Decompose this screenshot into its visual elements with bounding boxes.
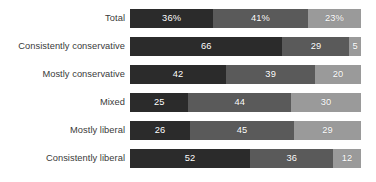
row-category-label: Consistently liberal — [0, 149, 130, 168]
row-category-label: Total — [0, 9, 130, 28]
bar-segment: 26 — [130, 121, 190, 140]
bar-segment: 66 — [130, 37, 282, 56]
bar-track: 66295 — [130, 37, 361, 56]
stacked-bar-chart: Total36%41%23%Consistently conservative6… — [0, 0, 376, 182]
bar-segment-value: 45 — [237, 121, 248, 140]
bar-segment: 44 — [188, 93, 291, 112]
chart-row: Mixed254430 — [0, 93, 376, 112]
bar-segment: 41% — [213, 9, 308, 28]
bar-segment: 52 — [130, 149, 250, 168]
row-category-label: Mostly conservative — [0, 65, 130, 84]
chart-row: Consistently liberal523612 — [0, 149, 376, 168]
bar-track: 423920 — [130, 65, 361, 84]
bar-segment-value: 66 — [201, 37, 212, 56]
row-category-label: Consistently conservative — [0, 37, 130, 56]
bar-segment: 39 — [226, 65, 315, 84]
bar-segment-value: 36 — [286, 149, 297, 168]
bar-segment-value: 44 — [234, 93, 245, 112]
bar-track: 36%41%23% — [130, 9, 361, 28]
row-category-label: Mostly liberal — [0, 121, 130, 140]
bar-segment: 30 — [291, 93, 361, 112]
bar-segment-value: 30 — [321, 93, 332, 112]
chart-row: Mostly liberal264529 — [0, 121, 376, 140]
bar-segment-value: 41% — [251, 9, 270, 28]
bar-segment: 23% — [308, 9, 361, 28]
bar-segment-value: 12 — [342, 149, 353, 168]
bar-segment: 20 — [315, 65, 361, 84]
bar-segment-value: 5 — [353, 37, 358, 56]
bar-segment: 42 — [130, 65, 226, 84]
bar-segment: 29 — [294, 121, 361, 140]
bar-segment-value: 23% — [325, 9, 344, 28]
bar-segment-value: 39 — [265, 65, 276, 84]
row-category-label: Mixed — [0, 93, 130, 112]
bar-segment: 29 — [282, 37, 349, 56]
bar-segment-value: 42 — [173, 65, 184, 84]
chart-row: Mostly conservative423920 — [0, 65, 376, 84]
bar-track: 523612 — [130, 149, 361, 168]
chart-row: Consistently conservative66295 — [0, 37, 376, 56]
bar-segment-value: 29 — [311, 37, 322, 56]
bar-segment-value: 36% — [162, 9, 181, 28]
bar-segment: 36% — [130, 9, 213, 28]
bar-segment: 45 — [190, 121, 294, 140]
bar-segment-value: 26 — [155, 121, 166, 140]
bar-segment-value: 52 — [185, 149, 196, 168]
bar-segment: 12 — [333, 149, 361, 168]
bar-segment-value: 29 — [322, 121, 333, 140]
bar-track: 254430 — [130, 93, 361, 112]
bar-track: 264529 — [130, 121, 361, 140]
bar-segment-value: 20 — [333, 65, 344, 84]
bar-segment: 36 — [250, 149, 333, 168]
chart-row: Total36%41%23% — [0, 9, 376, 28]
bar-segment-value: 25 — [154, 93, 165, 112]
bar-segment: 5 — [349, 37, 361, 56]
bar-segment: 25 — [130, 93, 188, 112]
